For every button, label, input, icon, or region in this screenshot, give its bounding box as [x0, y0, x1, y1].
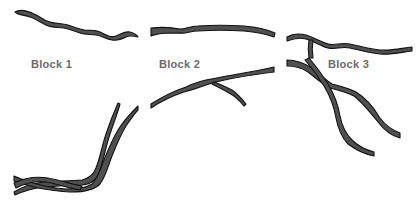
path-diagram [0, 0, 418, 208]
block-2-label: Block 2 [159, 58, 200, 70]
block-2-top-path [151, 25, 275, 37]
block-3-label: Block 3 [328, 58, 369, 70]
block-1-label: Block 1 [31, 58, 72, 70]
block-3-paths [287, 34, 412, 156]
block-1-top-path [15, 11, 138, 41]
block-1-bottom-paths [14, 103, 138, 195]
block-2-bottom-path [151, 67, 274, 108]
diagram-canvas: Block 1 Block 2 Block 3 [0, 0, 418, 208]
